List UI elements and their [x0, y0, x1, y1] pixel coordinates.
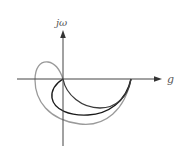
middle-curve [52, 79, 131, 115]
vertical-axis-arrow-icon [60, 30, 66, 38]
inner-curve [63, 79, 131, 108]
horizontal-axis-arrow-icon [154, 76, 162, 82]
nyquist-diagram: jω g [0, 0, 180, 158]
horizontal-axis-label: g [167, 73, 174, 86]
vertical-axis-label: jω [54, 17, 67, 28]
